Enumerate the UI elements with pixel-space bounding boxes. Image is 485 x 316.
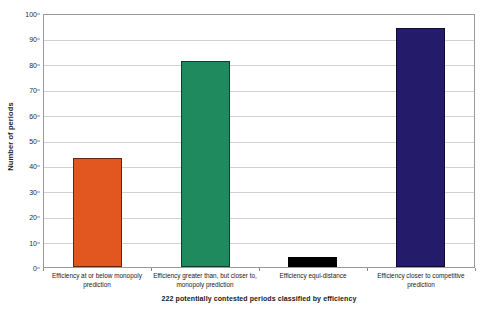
y-axis-tick-label: 20 [29,214,37,221]
y-axis-tick-mark [37,90,40,91]
y-axis-tick-label: 10 [29,239,37,246]
y-axis-tick-mark [37,14,40,15]
y-axis-tick-label: 60 [29,112,37,119]
bar-slot [367,15,475,267]
y-axis-tick-label: 30 [29,188,37,195]
bar-slot [152,15,260,267]
y-axis-tick-mark [37,166,40,167]
y-axis-tick-labels: 0102030405060708090100 [18,14,40,268]
y-axis-tick-mark [37,141,40,142]
y-axis-title: Number of periods [2,0,18,272]
x-axis-title: 222 potentially contested periods classi… [43,295,475,302]
y-axis-tick-mark [37,39,40,40]
y-axis-tick-label: 90 [29,36,37,43]
bar[interactable] [396,28,445,267]
y-axis-tick-label: 70 [29,87,37,94]
x-axis-category-label: Efficiency greater than, but closer to, … [151,272,259,294]
bar-slot [259,15,367,267]
x-axis-tick-mark [259,268,260,271]
bar[interactable] [73,158,122,267]
x-axis-category-label: Efficiency at or below monopoly predicti… [43,272,151,294]
y-axis-tick-mark [37,115,40,116]
y-axis-tick-mark [37,191,40,192]
plot-area [43,14,475,268]
y-axis-title-text: Number of periods [6,102,15,170]
bar[interactable] [181,61,230,267]
y-axis-tick-label: 40 [29,163,37,170]
bar-slot [44,15,152,267]
y-axis-tick-mark [37,242,40,243]
x-axis-category-label: Efficiency closer to competitive predict… [367,272,475,294]
y-axis-tick-mark [37,217,40,218]
y-axis-tick-mark [37,268,40,269]
bars-container [44,15,474,267]
y-axis-tick-label: 80 [29,61,37,68]
y-axis-tick-label: 100 [25,11,37,18]
x-axis-category-labels: Efficiency at or below monopoly predicti… [43,272,475,294]
x-axis-tick-mark [367,268,368,271]
x-axis-category-label: Efficiency equi-distance [259,272,367,294]
x-axis-tick-mark [475,268,476,271]
x-axis-tick-mark [151,268,152,271]
y-axis-tick-label: 50 [29,138,37,145]
bar[interactable] [288,257,337,267]
y-axis-tick-mark [37,64,40,65]
bar-chart-figure: Number of periods 0102030405060708090100… [0,0,485,316]
x-axis-tick-mark [43,268,44,271]
